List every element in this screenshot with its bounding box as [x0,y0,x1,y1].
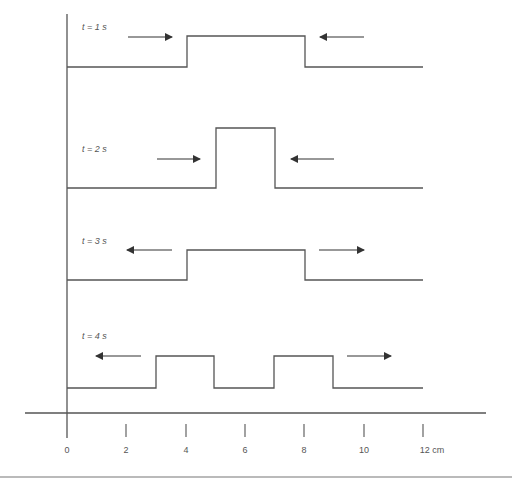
panel-t3: t = 3 s [67,236,423,280]
waveform-t3 [67,250,423,280]
x-axis-ticks [126,424,423,437]
waveform-t4 [67,356,423,388]
time-label-t2: t = 2 s [82,144,107,154]
panel-t4: t = 4 s [67,331,423,388]
waveform-t1 [67,36,423,67]
panel-t1: t = 1 s [67,22,423,67]
waveform-t2 [67,128,423,188]
panel-t2: t = 2 s [67,128,423,188]
time-label-t4: t = 4 s [82,331,107,341]
tick-label-12: 12 cm [420,445,445,455]
tick-label-4: 4 [183,445,188,455]
tick-label-0: 0 [64,445,69,455]
tick-label-8: 8 [301,445,306,455]
time-label-t3: t = 3 s [82,236,107,246]
wave-pulse-diagram: t = 1 s t = 2 s t = 3 s t = 4 s 0 2 4 6 … [0,0,512,491]
tick-label-10: 10 [359,445,369,455]
tick-label-2: 2 [123,445,128,455]
time-label-t1: t = 1 s [82,22,107,32]
tick-label-6: 6 [242,445,247,455]
